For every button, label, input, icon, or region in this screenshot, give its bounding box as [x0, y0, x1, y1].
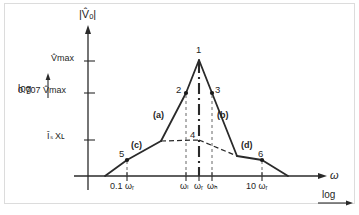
point-marker-5[interactable] [125, 158, 129, 162]
y-axis-title: |V̂ₒ| [79, 9, 96, 20]
x-axis-arrow [318, 173, 327, 179]
y-tick-label-0707vmax: 0.707 V̂max [18, 86, 66, 95]
x-axis-title: ω [330, 170, 339, 181]
segment-b-fall [199, 60, 237, 156]
y-axis-arrow [85, 25, 91, 34]
segment-label-d: (d) [241, 141, 253, 150]
asymptote-low-dashed [161, 140, 199, 141]
x-tick-label-wr: ωᵣ [194, 182, 203, 191]
point-label-3: 3 [215, 85, 220, 95]
log-x-arrow-head [346, 201, 353, 206]
y-tick-label-isxl: Îₛ Xʟ [47, 132, 65, 141]
x-tick-label-wh: ωₕ [207, 182, 218, 191]
x-tick-label-wl: ωₗ [180, 182, 189, 191]
log-x-label: log [322, 190, 335, 200]
point-label-4: 4 [190, 130, 195, 140]
segment-label-a: (a) [153, 111, 164, 120]
x-tick-label-10wr: 10 ωᵣ [246, 182, 268, 191]
point-label-2: 2 [176, 85, 181, 95]
log-y-arrow-head [46, 73, 51, 80]
figure-canvas: |V̂ₒ| ω log log V̂max 0.707 V̂max Îₛ Xʟ … [0, 0, 359, 215]
y-tick-label-vmax: V̂max [51, 54, 74, 63]
point-marker-2[interactable] [184, 91, 188, 95]
figure-frame [5, 4, 355, 204]
point-label-5: 5 [119, 149, 124, 159]
point-label-6: 6 [258, 149, 263, 159]
segment-label-c: (c) [131, 141, 142, 150]
point-marker-3[interactable] [210, 91, 214, 95]
segment-label-b: (b) [217, 111, 229, 120]
x-tick-label-0p1wr: 0.1 ωᵣ [110, 182, 134, 191]
point-label-1: 1 [196, 45, 201, 55]
